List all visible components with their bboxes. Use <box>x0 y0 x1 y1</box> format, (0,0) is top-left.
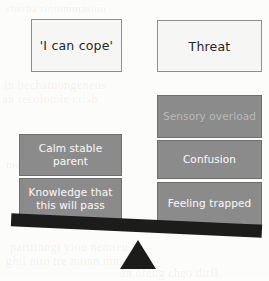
factor-box-calm-stable-parent: Calm stable parent <box>19 134 122 176</box>
fulcrum-triangle-icon <box>120 240 156 269</box>
factor-box-sensory-overload: Sensory overload <box>157 95 262 138</box>
factor-box-feeling-trapped: Feeling trapped <box>157 182 262 225</box>
ghost-text-line2: in bechatuongeneus <box>4 78 106 93</box>
ghost-text-line1: sherba rinnimmasion <box>6 2 106 14</box>
ghost-text-line3: an recolomie crish <box>2 92 98 107</box>
label-box-threat: Threat <box>157 20 262 72</box>
ghost-text-line5: parttinngi yiou nemteu <box>10 240 128 255</box>
factor-box-confusion: Confusion <box>157 140 262 179</box>
label-box-i-can-cope: 'I can cope' <box>31 19 122 72</box>
